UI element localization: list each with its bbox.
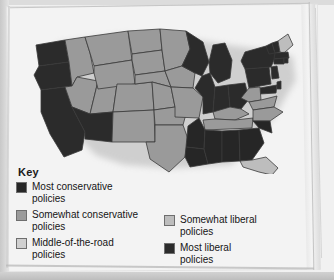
legend-item-somewhat-liberal[interactable]: Somewhat liberal policies <box>164 214 306 237</box>
state-NJ[interactable] <box>271 66 279 79</box>
legend-right-column-spacer <box>164 181 306 214</box>
page-bottom-margin <box>0 272 334 280</box>
legend-label-line-1: Most liberal <box>180 242 231 253</box>
legend-item-somewhat-conservative[interactable]: Somewhat conservative policies <box>16 209 166 232</box>
legend-item-label: Most liberal policies <box>180 242 231 265</box>
state-MD[interactable] <box>260 85 277 94</box>
legend-title: Key <box>18 166 306 178</box>
legend-label-line-2: policies <box>180 254 231 266</box>
state-CO[interactable] <box>113 82 154 112</box>
legend-label-line-1: Most conservative <box>32 181 113 192</box>
state-OR[interactable] <box>34 62 72 90</box>
map-legend: Key Most conservative policies Somewhat … <box>16 166 306 270</box>
state-RI[interactable] <box>284 58 288 63</box>
state-TN[interactable] <box>203 118 253 130</box>
legend-label-line-2: policies <box>32 249 114 261</box>
legend-item-label: Most conservative policies <box>32 181 113 204</box>
legend-item-most-conservative[interactable]: Most conservative policies <box>16 181 166 204</box>
state-AR[interactable] <box>186 118 205 149</box>
state-PA[interactable] <box>245 67 271 88</box>
legend-label-line-1: Somewhat conservative <box>32 209 138 220</box>
state-ME[interactable] <box>278 34 293 53</box>
legend-label-line-2: policies <box>180 226 257 238</box>
state-ND[interactable] <box>128 29 162 54</box>
state-MI[interactable] <box>209 43 232 83</box>
legend-item-middle-of-the-road[interactable]: Middle-of-the-road policies <box>16 237 166 260</box>
color-swatch-icon <box>16 182 27 193</box>
legend-column-left: Most conservative policies Somewhat cons… <box>16 181 166 265</box>
color-swatch-icon <box>16 238 27 249</box>
legend-label-line-2: policies <box>32 221 138 233</box>
state-NM[interactable] <box>112 110 155 142</box>
state-NC[interactable] <box>253 107 283 121</box>
state-DE[interactable] <box>277 81 281 89</box>
state-MS[interactable] <box>204 130 222 164</box>
color-swatch-icon <box>164 243 175 254</box>
legend-column-right: Somewhat liberal policies Most liberal p… <box>164 181 306 270</box>
color-swatch-icon <box>16 210 27 221</box>
map-container: .st{stroke:#3a3a3a;stroke-width:1.6;stro… <box>10 14 310 174</box>
color-swatch-icon <box>164 215 175 226</box>
state-CT[interactable] <box>274 58 284 64</box>
state-AL[interactable] <box>222 130 240 162</box>
state-GA[interactable] <box>239 128 264 161</box>
legend-item-most-liberal[interactable]: Most liberal policies <box>164 242 306 265</box>
legend-item-label: Middle-of-the-road policies <box>32 237 114 260</box>
united-states-choropleth[interactable]: .st{stroke:#3a3a3a;stroke-width:1.6;stro… <box>10 14 310 174</box>
legend-item-label: Somewhat liberal policies <box>180 214 257 237</box>
legend-label-line-1: Somewhat liberal <box>180 214 257 225</box>
legend-label-line-1: Middle-of-the-road <box>32 237 114 248</box>
state-SD[interactable] <box>132 50 165 75</box>
legend-item-label: Somewhat conservative policies <box>32 209 138 232</box>
scanned-page: .st{stroke:#3a3a3a;stroke-width:1.6;stro… <box>0 0 334 280</box>
legend-label-line-2: policies <box>32 193 113 205</box>
state-WA[interactable] <box>36 40 69 66</box>
